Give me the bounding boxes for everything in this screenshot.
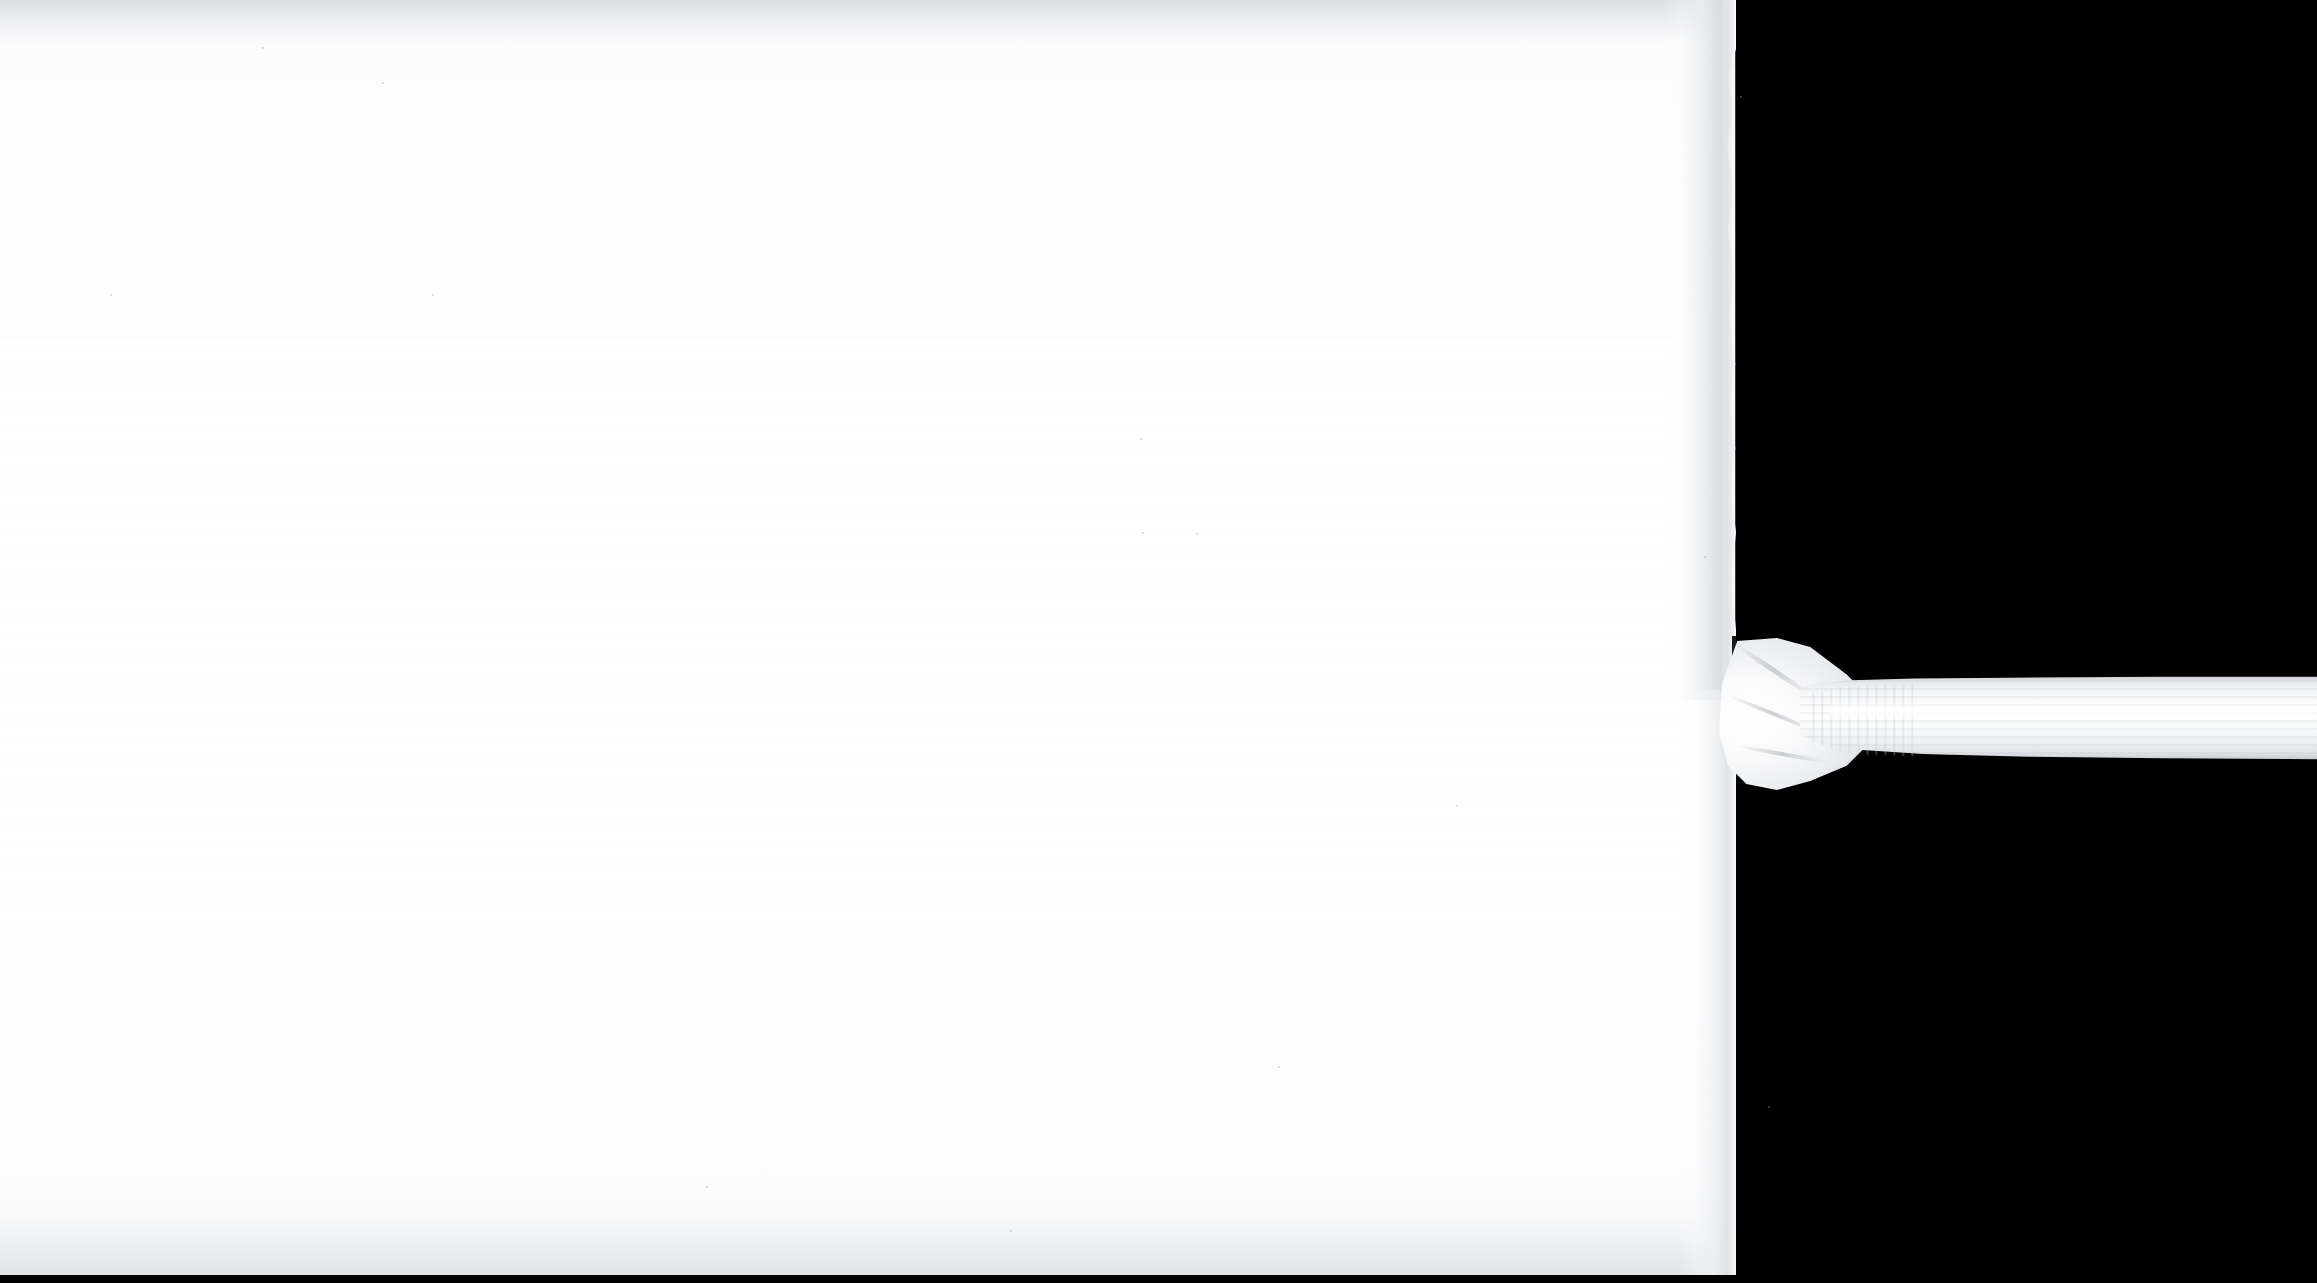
sock-ribbed-cuff (1800, 676, 2317, 760)
sock-leg-lower (1678, 690, 1736, 1280)
white-field (0, 0, 1735, 1277)
bottom-black-bar (0, 1275, 2317, 1283)
scene-canvas (0, 0, 2317, 1283)
sock-leg-upper (1664, 0, 1736, 700)
